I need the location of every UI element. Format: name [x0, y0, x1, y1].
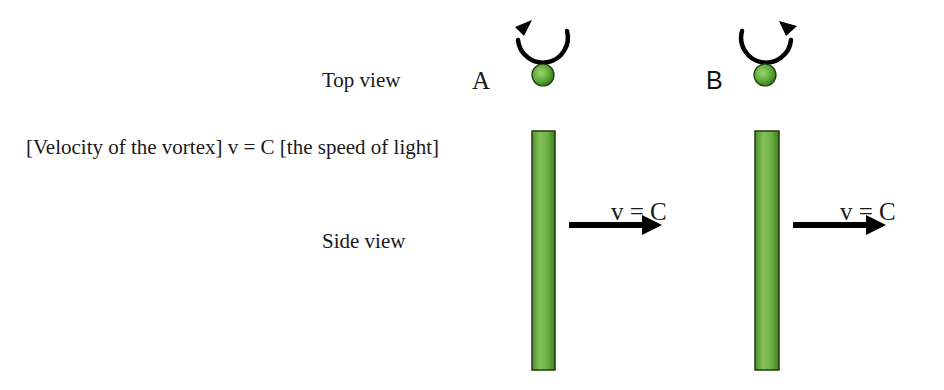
- velocity-label-b: v = C: [840, 199, 896, 224]
- diagram-canvas: [0, 0, 944, 390]
- vortex-a-side-bar: [532, 131, 555, 370]
- top-view-label: Top view: [322, 70, 400, 91]
- side-view-label: Side view: [322, 231, 405, 252]
- velocity-caption: [Velocity of the vortex] v = C [the spee…: [26, 137, 439, 158]
- vortex-b-top-view: [741, 21, 797, 86]
- vortex-ball-a: [532, 64, 554, 86]
- rotation-arrowhead-b-icon: [779, 21, 797, 36]
- vortex-b-label: B: [706, 68, 723, 93]
- vortex-a-top-view: [515, 20, 568, 86]
- vortex-b-side-bar: [755, 131, 779, 370]
- rotation-arrowhead-a-icon: [515, 20, 532, 36]
- rotation-arrow-a-icon: [518, 31, 568, 63]
- velocity-label-a: v = C: [611, 199, 667, 224]
- vortex-a-label: A: [472, 68, 490, 93]
- vortex-ball-b: [754, 64, 776, 86]
- rotation-arrow-b-icon: [741, 31, 791, 63]
